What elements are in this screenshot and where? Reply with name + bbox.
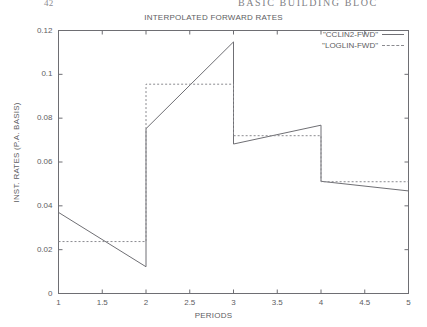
legend-line-swatch xyxy=(382,34,404,35)
x-tick-label: 3.5 xyxy=(257,298,297,307)
x-tick-label: 4.5 xyxy=(345,298,385,307)
legend-item: "CCLIN2-FWD" xyxy=(312,29,404,40)
series-line-1 xyxy=(59,42,409,267)
chart-figure: INTERPOLATED FORWARD RATES INST. RATES (… xyxy=(0,0,427,327)
y-tick-label: 0.08 xyxy=(9,113,53,122)
y-tick-label: 0.02 xyxy=(9,245,53,254)
x-tick-label: 5 xyxy=(389,298,427,307)
y-tick-label: 0 xyxy=(9,289,53,298)
x-tick-label: 1.5 xyxy=(82,298,122,307)
x-tick-label: 2 xyxy=(126,298,166,307)
data-series-layer xyxy=(59,42,409,267)
x-tick-label: 1 xyxy=(39,298,79,307)
chart-legend: "CCLIN2-FWD""LOGLIN-FWD" xyxy=(312,29,404,51)
legend-line-swatch xyxy=(382,45,404,46)
y-tick-label: 0.1 xyxy=(9,69,53,78)
x-tick-label: 4 xyxy=(301,298,341,307)
y-tick-label: 0.04 xyxy=(9,201,53,210)
legend-item: "LOGLIN-FWD" xyxy=(312,40,404,51)
y-tick-label: 0.12 xyxy=(9,26,53,35)
legend-label: "LOGLIN-FWD" xyxy=(322,40,378,51)
x-tick-label: 3 xyxy=(214,298,254,307)
x-tick-label: 2.5 xyxy=(170,298,210,307)
legend-label: "CCLIN2-FWD" xyxy=(323,29,378,40)
y-tick-label: 0.06 xyxy=(9,157,53,166)
